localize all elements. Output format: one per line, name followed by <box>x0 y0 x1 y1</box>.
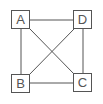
graph-diagram: A D B C <box>0 0 103 104</box>
node-d-label: D <box>78 13 87 26</box>
edge-d-b <box>29 29 74 75</box>
node-b-label: B <box>16 77 25 90</box>
node-c: C <box>73 73 92 92</box>
node-a-label: A <box>16 13 25 26</box>
node-d: D <box>73 10 92 29</box>
node-a: A <box>11 10 30 29</box>
node-b: B <box>11 74 30 93</box>
node-c-label: C <box>78 76 87 89</box>
